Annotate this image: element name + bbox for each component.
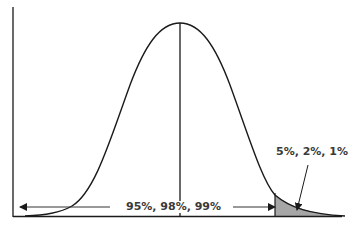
acceptance-label: 95%, 98%, 99% (126, 201, 221, 213)
critical-label: 5%, 2%, 1% (276, 146, 348, 158)
tail-pointer-arrow (297, 165, 308, 210)
critical-region-shade (275, 195, 345, 216)
bell-curve (25, 23, 345, 216)
normal-distribution-diagram (0, 0, 356, 227)
